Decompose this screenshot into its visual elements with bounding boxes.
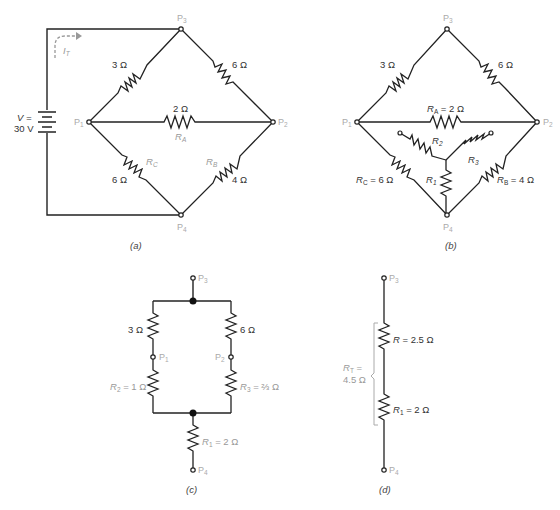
junction-bottom-c bbox=[190, 410, 197, 417]
value-rt-d: 4.5 Ω bbox=[343, 374, 366, 385]
label-r1-d: R1 = 2 Ω bbox=[393, 404, 429, 416]
label-r-d: R = 2.5 Ω bbox=[393, 334, 434, 345]
panel-b: P3 P1 P2 P4 3 Ω 6 Ω RA = 2 Ω RC = 6 Ω RB… bbox=[342, 13, 553, 251]
voltage-label: V = bbox=[17, 112, 32, 123]
node-p2 bbox=[271, 120, 275, 124]
value-6ohm-top: 6 Ω bbox=[232, 59, 247, 70]
battery-icon bbox=[38, 112, 56, 132]
value-3ohm: 3 Ω bbox=[112, 59, 127, 70]
label-rb: RB bbox=[206, 156, 218, 168]
node-p2-b bbox=[535, 120, 539, 124]
label-ra-b: RA = 2 Ω bbox=[427, 103, 464, 115]
node-p4-d bbox=[382, 468, 386, 472]
value-2ohm: 2 Ω bbox=[173, 103, 188, 114]
node-p3-b bbox=[445, 27, 449, 31]
voltage-value: 30 V bbox=[14, 123, 34, 134]
resistor-ra bbox=[89, 116, 273, 128]
label-p3-c: P3 bbox=[198, 273, 208, 284]
label-rc-b: RC = 6 Ω bbox=[356, 174, 393, 186]
label-p4-d: P4 bbox=[389, 465, 399, 476]
node-y-left bbox=[398, 131, 402, 135]
panel-c: P3 P1 P2 P4 3 Ω 6 Ω R2 = 1 Ω R3 = ⅔ Ω R1… bbox=[110, 273, 279, 495]
resistor-rb bbox=[181, 122, 273, 215]
caption-d: (d) bbox=[379, 484, 391, 495]
node-p1-c bbox=[151, 355, 155, 359]
label-r2-c: R2 = 1 Ω bbox=[110, 381, 146, 393]
resistor-r1 bbox=[441, 160, 451, 213]
label-p4: P4 bbox=[177, 222, 187, 233]
label-r2: R2 bbox=[432, 135, 443, 147]
resistor-6ohm-c bbox=[226, 301, 236, 356]
node-p3-d bbox=[382, 276, 386, 280]
label-p4-b: P4 bbox=[443, 222, 453, 233]
label-p3: P3 bbox=[177, 13, 187, 24]
resistor-3ohm-c bbox=[148, 301, 158, 356]
label-rc: RC bbox=[146, 156, 158, 168]
label-p3-d: P3 bbox=[389, 273, 399, 284]
label-ra: RA bbox=[175, 131, 186, 143]
label-p3-b: P3 bbox=[443, 13, 453, 24]
node-p4-c bbox=[191, 468, 195, 472]
resistor-r1-c bbox=[188, 413, 198, 469]
label-r1-c: R1 = 2 Ω bbox=[202, 436, 238, 448]
label-p1-b: P1 bbox=[342, 117, 352, 128]
panel-a: V = 30 V IT P3 P1 P2 P4 3 Ω 6 Ω 2 Ω RA 6… bbox=[14, 13, 288, 251]
resistor-rc bbox=[89, 122, 181, 215]
resistor-3ohm bbox=[89, 29, 181, 122]
current-label: IT bbox=[63, 45, 71, 57]
caption-c: (c) bbox=[186, 484, 197, 495]
node-p2-c bbox=[229, 355, 233, 359]
label-p2-b: P2 bbox=[543, 117, 553, 128]
node-p4-b bbox=[445, 213, 449, 217]
panel-d: P3 P4 R = 2.5 Ω R1 = 2 Ω RT = 4.5 Ω (d) bbox=[343, 273, 434, 495]
label-rb-b: RB = 4 Ω bbox=[497, 174, 534, 186]
node-y-right bbox=[489, 131, 493, 135]
value-6ohm-b: 6 Ω bbox=[498, 59, 513, 70]
resistor-r-d bbox=[379, 279, 389, 392]
node-p3-c bbox=[191, 276, 195, 280]
label-p2: P2 bbox=[278, 117, 288, 128]
resistor-r2-c bbox=[148, 359, 158, 413]
value-6ohm-bottom: 6 Ω bbox=[112, 174, 127, 185]
label-p1: P1 bbox=[74, 117, 84, 128]
label-p1-c: P1 bbox=[159, 352, 169, 363]
value-3ohm-b: 3 Ω bbox=[380, 59, 395, 70]
label-r1: R1 bbox=[426, 174, 437, 186]
label-p4-c: P4 bbox=[198, 465, 208, 476]
node-p3 bbox=[179, 27, 183, 31]
resistor-r1-d bbox=[379, 392, 389, 469]
junction-top-c bbox=[190, 298, 197, 305]
label-r3: R3 bbox=[468, 154, 479, 166]
resistor-6ohm bbox=[181, 29, 273, 122]
caption-b: (b) bbox=[445, 240, 457, 251]
resistor-ra-b bbox=[357, 116, 537, 128]
resistor-rb-b bbox=[447, 122, 537, 215]
caption-a: (a) bbox=[130, 240, 142, 251]
value-6ohm-c: 6 Ω bbox=[240, 324, 255, 335]
arrowhead-icon bbox=[76, 32, 82, 40]
label-r3-c: R3 = ⅔ Ω bbox=[240, 381, 279, 393]
circuit-figure: V = 30 V IT P3 P1 P2 P4 3 Ω 6 Ω 2 Ω RA 6… bbox=[0, 0, 560, 510]
label-rt-d: RT = bbox=[343, 362, 362, 374]
brace-icon bbox=[371, 323, 378, 425]
node-p1-b bbox=[355, 120, 359, 124]
resistor-r3-c bbox=[226, 359, 236, 413]
value-3ohm-c: 3 Ω bbox=[128, 324, 143, 335]
node-p1 bbox=[87, 120, 91, 124]
node-p4 bbox=[179, 213, 183, 217]
value-4ohm: 4 Ω bbox=[232, 174, 247, 185]
label-p2-c: P2 bbox=[215, 352, 225, 363]
